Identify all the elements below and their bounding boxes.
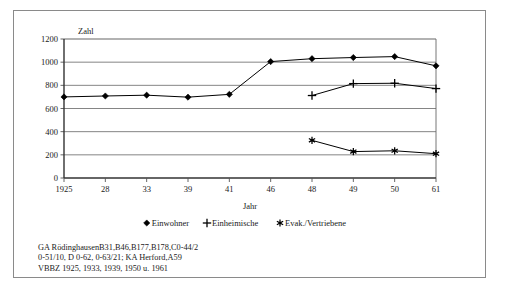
legend-label-einheimische: Einheimische — [212, 218, 258, 228]
population-line-chart: 0200400600800100012001925283339414648495… — [14, 11, 487, 279]
y-tick-label-800: 800 — [45, 80, 58, 90]
y-tick-label-200: 200 — [45, 150, 58, 160]
chart-canvas: 0200400600800100012001925283339414648495… — [14, 11, 487, 279]
data-point-49 — [350, 54, 356, 60]
y-tick-label-1200: 1200 — [41, 34, 58, 44]
x-tick-label-48: 48 — [308, 184, 317, 194]
data-point-28 — [102, 93, 108, 99]
series-einheimische — [308, 79, 440, 100]
axes — [61, 39, 437, 182]
series-line — [312, 140, 436, 153]
footnote-line-3: VBBZ 1925, 1933, 1939, 1950 u. 1961 — [38, 264, 368, 274]
chart-frame: 0200400600800100012001925283339414648495… — [13, 10, 486, 278]
data-point-1925 — [61, 94, 67, 100]
series-einwohner — [61, 54, 439, 101]
y-tick-label-600: 600 — [45, 104, 58, 114]
legend-label-evak-vertriebene: Evak./Vertriebene — [285, 218, 346, 228]
series-evak-vertriebene — [309, 137, 439, 158]
axis-labels: 0200400600800100012001925283339414648495… — [41, 26, 440, 211]
legend-item-einheimische[interactable]: Einheimische — [203, 218, 259, 228]
x-tick-label-50: 50 — [390, 184, 399, 194]
legend-item-evak-vertriebene[interactable]: Evak./Vertriebene — [277, 218, 346, 228]
legend-label-einwohner: Einwohner — [152, 218, 189, 228]
data-point-39 — [185, 94, 191, 100]
y-tick-label-400: 400 — [45, 127, 58, 137]
series-line — [64, 57, 436, 98]
data-point-33 — [144, 92, 150, 98]
x-tick-label-39: 39 — [184, 184, 193, 194]
data-point-48 — [309, 137, 315, 144]
x-tick-label-41: 41 — [225, 184, 234, 194]
data-point-48 — [309, 56, 315, 62]
source-footnote: GA RödinghausenB31,B46,B177,B178,C0-44/2… — [38, 243, 368, 274]
data-point-61 — [433, 63, 439, 69]
x-tick-label-61: 61 — [432, 184, 441, 194]
footnote-line-2: 0-51/10, D 0-62, 0-63/21; KA Herford,A59 — [38, 253, 368, 263]
data-point-50 — [392, 54, 398, 60]
legend-item-einwohner[interactable]: Einwohner — [144, 218, 190, 228]
x-tick-label-1925: 1925 — [56, 184, 73, 194]
legend-marker-star — [277, 219, 283, 226]
y-tick-label-0: 0 — [54, 173, 58, 183]
y-tick-label-1000: 1000 — [41, 57, 58, 67]
x-tick-label-49: 49 — [349, 184, 358, 194]
chart-legend: EinwohnerEinheimischeEvak./Vertriebene — [144, 218, 347, 228]
data-series — [61, 54, 440, 158]
gridlines — [64, 39, 436, 178]
legend-marker-diamond — [144, 220, 150, 226]
y-axis-title: Zahl — [78, 26, 94, 36]
x-axis-title: Jahr — [243, 201, 257, 211]
x-tick-label-28: 28 — [101, 184, 110, 194]
x-tick-label-33: 33 — [142, 184, 151, 194]
footnote-line-1: GA RödinghausenB31,B46,B177,B178,C0-44/2 — [38, 243, 368, 253]
x-tick-label-46: 46 — [266, 184, 275, 194]
